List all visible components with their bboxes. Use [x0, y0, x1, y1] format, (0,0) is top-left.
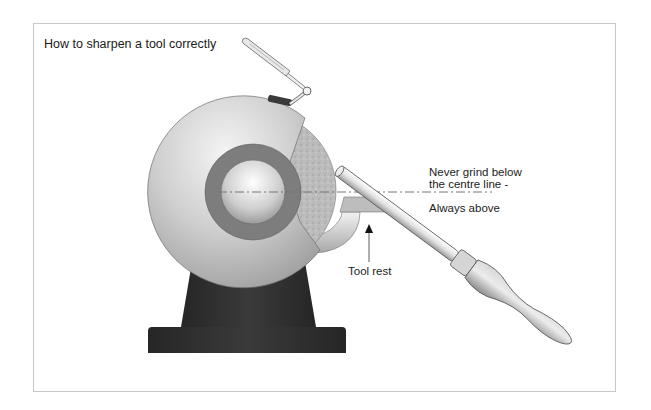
wooden-handle — [463, 258, 579, 354]
annotation-never-grind-line2: the centre line - — [429, 178, 508, 190]
eye-shield-arm — [242, 38, 311, 104]
annotation-never-grind-line1: Never grind below — [429, 166, 522, 178]
figure-title: How to sharpen a tool correctly — [44, 38, 216, 50]
annotation-always-above: Always above — [429, 202, 500, 214]
grinder-illustration — [0, 0, 651, 410]
tool-rest-pointer — [365, 224, 373, 262]
annotation-tool-rest: Tool rest — [348, 265, 391, 277]
